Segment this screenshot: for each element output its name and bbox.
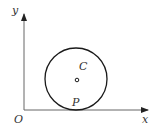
center-label: C [79, 60, 88, 73]
x-axis-label: x [142, 113, 149, 125]
y-axis-label: y [11, 4, 19, 17]
center-point-marker [75, 78, 79, 82]
diagram-canvas: y x O C P [0, 0, 158, 125]
origin-label: O [14, 113, 23, 125]
tangent-point-label: P [71, 96, 80, 109]
